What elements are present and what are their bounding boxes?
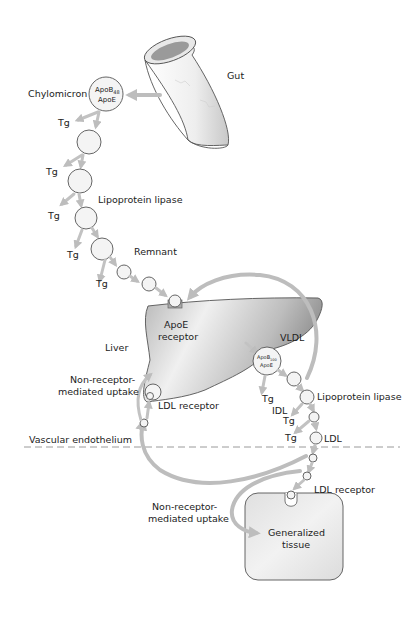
ldl-bound-particle bbox=[147, 393, 154, 400]
tg-release-arrow bbox=[66, 155, 82, 165]
chylomicron-label: Chylomicron bbox=[28, 88, 87, 99]
flow-arrow bbox=[130, 276, 137, 281]
gut-icon bbox=[141, 30, 229, 148]
non-receptor-label-2b: mediated uptake bbox=[148, 513, 229, 524]
tg-label-3: Tg bbox=[47, 210, 60, 221]
flow-arrow bbox=[79, 194, 81, 205]
remnant-label: Remnant bbox=[134, 246, 177, 257]
gut-label: Gut bbox=[227, 70, 244, 81]
flow-arrow bbox=[92, 228, 97, 236]
flow-arrow bbox=[310, 404, 313, 410]
tg-release-arrow bbox=[262, 376, 265, 392]
tg-label-4: Tg bbox=[66, 249, 79, 260]
tg-release-arrow bbox=[296, 421, 309, 432]
tg-release-arrow bbox=[76, 230, 82, 246]
flow-arrow bbox=[81, 155, 83, 166]
chylomicron-particle-2 bbox=[77, 130, 101, 154]
tg-release-arrow bbox=[62, 194, 74, 204]
tg-label-6: Tg bbox=[261, 393, 274, 404]
flow-arrow bbox=[313, 445, 315, 452]
flow-arrow bbox=[315, 423, 316, 428]
liver-label: Liver bbox=[105, 342, 128, 353]
ldl-particle-2 bbox=[309, 454, 317, 462]
vldl-label: VLDL bbox=[280, 332, 305, 343]
flow-arrow bbox=[298, 386, 302, 390]
tg-label-8: Tg bbox=[284, 432, 297, 443]
chylomicron-apoe-label: ApoE bbox=[98, 96, 116, 104]
tg-release-arrow bbox=[293, 404, 302, 414]
lipoprotein-diagram: Gut ApoB48 ApoE Chylomicron Tg Tg Lipopr… bbox=[0, 0, 417, 622]
ldl-receptor-uptake-arrow bbox=[147, 403, 149, 418]
lipoprotein-lipase-label-1: Lipoprotein lipase bbox=[98, 194, 183, 205]
tg-release-arrow bbox=[78, 112, 98, 120]
idl-particle bbox=[300, 390, 314, 404]
ldl-particle bbox=[310, 432, 322, 444]
tg-label-1: Tg bbox=[57, 117, 70, 128]
remnant-bound-particle bbox=[169, 295, 181, 307]
remnant-particle-2 bbox=[142, 277, 156, 291]
liver-ldl-receptor-label: LDL receptor bbox=[158, 400, 219, 411]
ldl-receptor-uptake-arrow-tissue bbox=[295, 480, 304, 488]
tissue-label-2: tissue bbox=[282, 539, 310, 550]
lipoprotein-lipase-label-2: Lipoprotein lipase bbox=[317, 391, 402, 402]
non-receptor-label-1b: mediated uptake bbox=[58, 386, 139, 397]
tg-release-arrow bbox=[100, 260, 105, 280]
vldl-apoe-label: ApoE bbox=[260, 362, 273, 369]
apoe-receptor-label-2: receptor bbox=[158, 331, 198, 342]
chylomicron-particle-3 bbox=[68, 169, 92, 193]
flow-arrow bbox=[309, 463, 312, 471]
liver-icon bbox=[144, 298, 323, 402]
tg-label-2: Tg bbox=[45, 166, 58, 177]
vldl-particle-2 bbox=[287, 372, 301, 386]
apoe-receptor-label-1: ApoE bbox=[164, 319, 188, 330]
tg-label-5: Tg bbox=[95, 278, 108, 289]
flow-arrow bbox=[156, 288, 165, 295]
vascular-endothelium-label: Vascular endothelium bbox=[29, 434, 132, 445]
flow-arrow bbox=[110, 257, 115, 264]
tissue-ldl-receptor-label: LDL receptor bbox=[314, 484, 375, 495]
flow-arrow bbox=[278, 370, 285, 375]
ldl-bound-tissue-particle bbox=[287, 491, 295, 499]
chylomicron-particle-4 bbox=[75, 207, 97, 229]
ldl-label: LDL bbox=[324, 433, 343, 444]
tg-label-7: Tg bbox=[282, 415, 295, 426]
non-receptor-label-1a: Non-receptor- bbox=[70, 374, 135, 385]
idl-particle-2 bbox=[309, 412, 319, 422]
tissue-label-1: Generalized bbox=[268, 527, 325, 538]
non-receptor-label-2a: Non-receptor- bbox=[152, 501, 217, 512]
